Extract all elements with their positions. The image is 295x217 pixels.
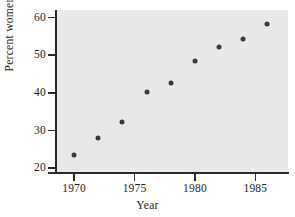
y-tick-mark [48,54,56,56]
x-axis-label: Year [0,199,295,211]
y-axis-label: Percent women [3,0,19,115]
data-point [144,90,149,95]
x-axis-line [48,172,289,174]
x-tick-label: 1985 [243,183,267,195]
x-tick-label: 1980 [183,183,207,195]
y-tick-label: 20 [34,162,46,174]
x-tick-label: 1975 [123,183,147,195]
x-tick-mark [134,174,136,181]
data-point [192,58,197,63]
y-tick-mark [48,167,56,169]
data-point [217,44,222,49]
data-point [168,81,173,86]
y-tick-mark [48,17,56,19]
y-tick-label: 50 [34,49,46,61]
x-tick-label: 1970 [62,183,86,195]
x-tick-mark [73,174,75,181]
y-tick-mark [48,92,56,94]
data-point [96,136,101,141]
y-tick-label: 40 [34,87,46,99]
x-tick-mark [194,174,196,181]
y-tick-mark [48,130,56,132]
data-point [120,119,125,124]
x-tick-mark [255,174,257,181]
data-point [241,36,246,41]
data-point [265,21,270,26]
y-tick-label: 30 [34,125,46,137]
y-tick-label: 60 [34,12,46,24]
scatter-chart-figure: 2030405060 1970197519801985 Percent wome… [0,0,295,217]
plot-area-background [56,10,288,172]
data-point [72,153,77,158]
